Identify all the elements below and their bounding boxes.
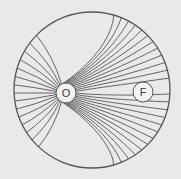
field-line xyxy=(32,101,60,140)
field-line xyxy=(64,103,121,162)
node-O-label: O xyxy=(62,87,71,99)
field-line xyxy=(37,35,62,84)
field-line xyxy=(76,93,170,95)
node-F: F xyxy=(133,82,153,102)
field-line xyxy=(76,96,168,110)
field-line xyxy=(39,102,62,147)
field-line xyxy=(30,43,60,85)
node-O: O xyxy=(56,83,76,103)
field-line-diagram: O F xyxy=(0,0,181,179)
field-line xyxy=(15,95,56,102)
field-line xyxy=(14,85,56,92)
node-F-label: F xyxy=(140,86,147,98)
